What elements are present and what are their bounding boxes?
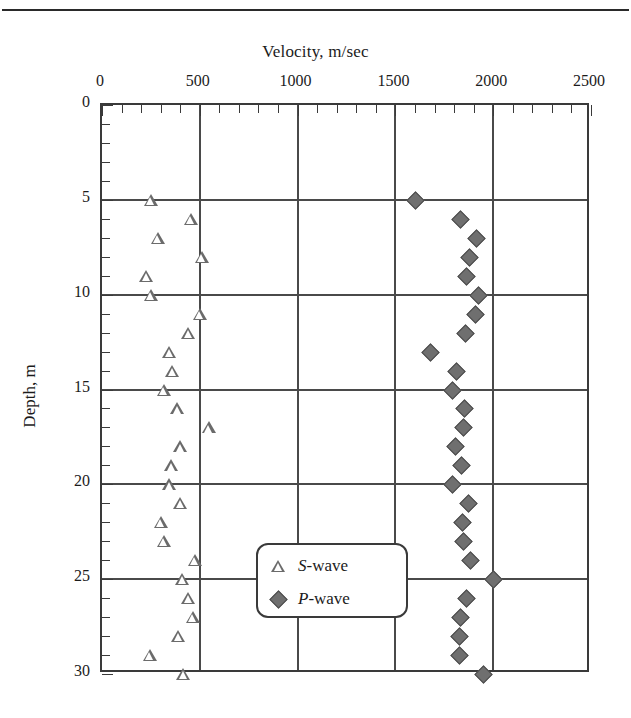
filled-diamond-icon [459,495,477,513]
y-tick-mark [102,390,113,391]
open-triangle-icon [139,270,153,282]
x-tick-mark [435,105,436,113]
y-tick-mark [102,162,110,163]
y-tick-mark [102,200,113,201]
velocity-depth-figure: Velocity, m/sec Depth, m 050010001500200… [0,0,631,718]
open-triangle-icon [157,535,171,547]
filled-diamond-icon [443,381,461,399]
filled-diamond-icon [421,343,439,361]
filled-diamond-icon [457,267,475,285]
y-tick-mark [102,295,113,296]
open-triangle-icon [143,649,157,661]
filled-diamond-icon [461,551,479,569]
open-triangle-icon [144,289,158,301]
filled-diamond-icon [467,229,485,247]
y-tick-label: 25 [42,567,90,585]
open-triangle-icon [151,232,165,244]
filled-diamond-icon [258,593,298,606]
open-triangle-icon [258,560,298,572]
open-triangle-icon [171,630,185,642]
y-tick-mark [102,219,110,220]
x-tick-mark [376,105,377,113]
filled-diamond-icon [443,476,461,494]
y-tick-mark [102,181,110,182]
y-tick-mark [102,674,113,675]
y-tick-label: 30 [42,662,90,680]
open-triangle-icon [184,213,198,225]
gridline-horizontal [102,199,587,201]
x-tick-mark [474,105,475,113]
filled-diamond-icon [447,362,465,380]
gridline-vertical [199,105,201,670]
open-triangle-icon [162,478,176,490]
x-tick-label: 2000 [456,72,526,90]
y-tick-mark [102,238,110,239]
filled-diamond-icon [454,533,472,551]
open-triangle-icon [162,346,176,358]
open-triangle-icon [181,327,195,339]
filled-diamond-icon [457,589,475,607]
x-tick-label: 500 [163,72,233,90]
open-triangle-icon [202,421,216,433]
open-triangle-icon [164,459,178,471]
legend-item-s-wave: S-wave [258,551,406,581]
x-tick-mark [180,105,181,113]
filled-diamond-icon [455,400,473,418]
open-triangle-icon [188,554,202,566]
x-tick-mark [356,105,357,113]
legend-label-p-wave-italic: P [298,589,308,608]
x-tick-label: 2500 [554,72,624,90]
filled-diamond-icon [484,570,502,588]
y-tick-mark [102,314,110,315]
legend-label-s-wave-italic: S [298,556,307,575]
y-tick-mark [102,143,110,144]
y-tick-mark [102,427,110,428]
y-tick-mark [102,579,113,580]
y-tick-mark [102,560,110,561]
legend-label-s-wave-rest: -wave [307,556,349,575]
y-tick-label: 0 [42,93,90,111]
x-tick-mark [513,105,514,113]
open-triangle-icon [193,308,207,320]
y-tick-mark [102,598,110,599]
open-triangle-icon [176,668,190,680]
x-tick-mark [395,105,396,116]
x-tick-mark [571,105,572,113]
x-tick-mark [239,105,240,113]
y-tick-mark [102,541,110,542]
y-tick-mark [102,522,110,523]
y-tick-mark [102,257,110,258]
y-tick-mark [102,333,110,334]
open-triangle-icon [181,592,195,604]
y-tick-mark [102,636,110,637]
x-tick-mark [337,105,338,113]
filled-diamond-icon [460,248,478,266]
x-tick-label: 0 [65,72,135,90]
legend-label-p-wave: P-wave [298,589,350,609]
x-tick-label: 1500 [358,72,428,90]
y-tick-label: 10 [42,283,90,301]
y-tick-mark [102,371,110,372]
x-tick-mark [415,105,416,113]
filled-diamond-icon [452,457,470,475]
x-tick-mark [278,105,279,113]
x-tick-mark [141,105,142,113]
x-tick-mark [552,105,553,113]
open-triangle-icon [154,516,168,528]
legend: S-wave P-wave [256,543,408,618]
filled-diamond-icon [450,646,468,664]
open-triangle-icon [173,440,187,452]
x-axis-title: Velocity, m/sec [0,42,631,62]
x-tick-mark [317,105,318,113]
y-tick-mark [102,484,113,485]
y-tick-mark [102,276,110,277]
filled-diamond-icon [446,438,464,456]
gridline-horizontal [102,294,587,296]
y-tick-mark [102,465,110,466]
legend-label-p-wave-rest: -wave [308,589,350,608]
open-triangle-icon [170,402,184,414]
y-tick-label: 15 [42,378,90,396]
filled-diamond-icon [475,665,493,683]
open-triangle-icon [195,251,209,263]
filled-diamond-icon [406,191,424,209]
